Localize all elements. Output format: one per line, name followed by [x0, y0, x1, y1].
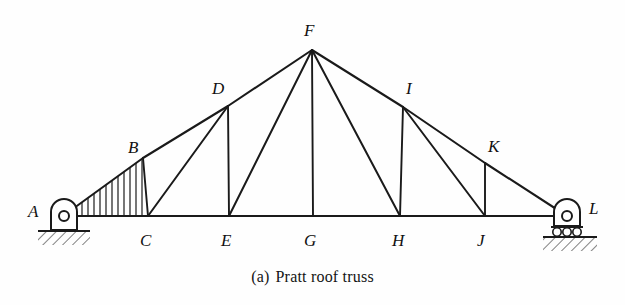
member-I-J [403, 107, 485, 216]
node-label-D: D [212, 80, 224, 97]
node-label-H: H [392, 232, 404, 249]
member-group-diagonals [148, 50, 485, 216]
node-label-G: G [304, 232, 316, 249]
roller-support-ground-hatch [543, 238, 597, 251]
figure-caption: (a)Pratt roof truss [0, 268, 625, 286]
member-B-C [143, 158, 148, 216]
node-label-E: E [221, 232, 231, 249]
caption-index: (a) [251, 268, 269, 285]
caption-text: Pratt roof truss [276, 268, 374, 285]
member-F-G [312, 50, 313, 216]
pin-support-ground-hatch [38, 232, 90, 245]
member-I-H [400, 107, 403, 216]
member-B-D [143, 106, 228, 158]
node-label-C: C [140, 232, 151, 249]
roller-wheel-1 [553, 228, 561, 236]
node-label-B: B [128, 139, 138, 156]
roller-wheel-2 [563, 228, 571, 236]
pin-support-hinge-circle [59, 211, 69, 221]
member-E-F [229, 50, 312, 216]
truss-drawing [0, 0, 625, 270]
node-label-K: K [488, 138, 499, 155]
member-I-K [403, 107, 485, 163]
truss-figure: A B C D E F G H I J K L (a)Pratt roof tr… [0, 0, 625, 305]
roller-wheel-3 [573, 228, 581, 236]
roller-support-hinge-circle [562, 211, 572, 221]
node-label-I: I [406, 80, 412, 97]
member-group-top-chord [63, 50, 567, 216]
node-label-L: L [589, 200, 598, 217]
node-label-J: J [477, 232, 485, 249]
member-C-D [148, 106, 228, 216]
member-group-verticals [143, 50, 485, 216]
node-label-F: F [304, 22, 314, 39]
member-D-F [228, 50, 312, 106]
member-D-E [228, 106, 229, 216]
member-F-I [312, 50, 403, 107]
member-F-H [312, 50, 400, 216]
node-label-A: A [28, 203, 38, 220]
